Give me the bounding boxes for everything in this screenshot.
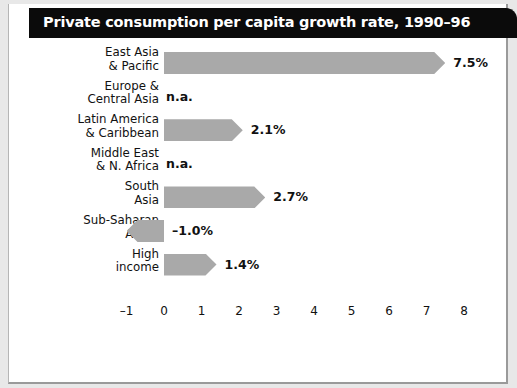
chart-bar (164, 52, 445, 74)
x-axis-tick-label: 1 (198, 304, 206, 318)
category-label-line1: Europe & (105, 79, 159, 93)
value-label: –1.0% (172, 223, 213, 238)
x-axis-tick-label: 0 (160, 304, 168, 318)
chart-header-bar: Private consumption per capita growth ra… (29, 8, 517, 38)
x-axis-tick-label: 2 (235, 304, 243, 318)
category-label: SouthAsia (29, 180, 159, 207)
chart-bar (164, 119, 243, 141)
x-axis-tick-label: 3 (273, 304, 281, 318)
category-label-line2: Central Asia (29, 93, 159, 107)
chart-row: Middle East& N. African.a. (17, 147, 517, 181)
chart-row: East Asia& Pacific7.5% (17, 46, 517, 80)
category-label: Latin America& Caribbean (29, 113, 159, 140)
value-label: 2.1% (251, 122, 286, 137)
x-axis-tick-label: 5 (348, 304, 356, 318)
chart-title: Private consumption per capita growth ra… (43, 14, 470, 30)
category-label: Europe &Central Asia (29, 80, 159, 107)
chart-row: SouthAsia2.7% (17, 180, 517, 214)
category-label: Middle East& N. Africa (29, 147, 159, 174)
chart-row: Latin America& Caribbean2.1% (17, 113, 517, 147)
chart-row: Highincome1.4% (17, 248, 517, 282)
value-label: 2.7% (273, 189, 308, 204)
x-axis-tick-label: 8 (460, 304, 468, 318)
x-axis-tick-label: 6 (385, 304, 393, 318)
value-na: n.a. (166, 89, 193, 104)
chart-plot-area: East Asia& Pacific7.5%Europe &Central As… (17, 38, 517, 306)
x-axis: –1012345678 (17, 304, 517, 324)
category-label-line2: income (29, 261, 159, 275)
category-label-line2: Asia (29, 194, 159, 208)
x-axis-tick-label: 4 (310, 304, 318, 318)
category-label: Highincome (29, 248, 159, 275)
chart-card: Private consumption per capita growth ra… (8, 4, 508, 384)
category-label: East Asia& Pacific (29, 46, 159, 73)
x-axis-tick-label: 7 (423, 304, 431, 318)
category-label-line1: Middle East (91, 146, 159, 160)
category-label-line1: East Asia (105, 45, 159, 59)
category-label-line1: Latin America (77, 112, 159, 126)
category-label-line2: & Pacific (29, 60, 159, 74)
value-na: n.a. (166, 156, 193, 171)
chart-row: Europe &Central Asian.a. (17, 80, 517, 114)
chart-row: Sub-SaharanAfrica–1.0% (17, 214, 517, 248)
x-axis-tick-label: –1 (120, 304, 134, 318)
value-label: 1.4% (225, 257, 260, 272)
chart-bar (164, 186, 265, 208)
value-label: 7.5% (453, 55, 488, 70)
category-label-line2: & N. Africa (29, 160, 159, 174)
category-label-line2: & Caribbean (29, 127, 159, 141)
chart-bar (164, 254, 217, 276)
category-label-line1: South (125, 179, 159, 193)
category-label-line1: High (132, 247, 159, 261)
